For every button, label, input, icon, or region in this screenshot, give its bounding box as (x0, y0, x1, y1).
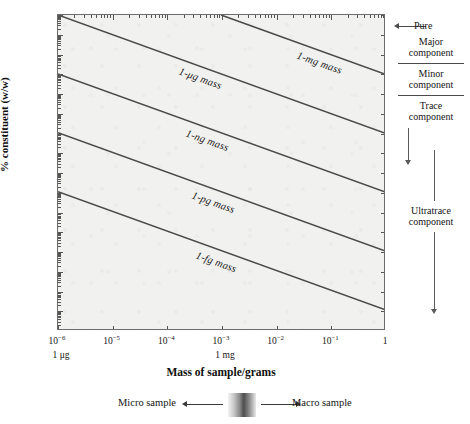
x-tick-label: 10−5 (103, 337, 120, 347)
sample-gradient-swatch (228, 393, 256, 417)
x-tick-sublabel: 1 μg (53, 351, 70, 361)
x-tick-sublabel: 1 mg (215, 351, 234, 361)
legend-label-major-2: component (392, 47, 470, 59)
trace-arrow-line (408, 128, 409, 161)
sample-size-scale: Micro sample Macro sample (0, 392, 470, 420)
x-axis-title: Mass of sample/grams (166, 366, 275, 378)
legend-label-ultratrace-2: component (392, 216, 470, 228)
legend-label-trace-2: component (392, 111, 470, 123)
micro-sample-label: Micro sample (118, 397, 176, 408)
legend-label-ultratrace-1: Ultratrace (392, 205, 470, 217)
legend-label-major-1: Major (392, 36, 470, 48)
legend-label-pure: Pure (414, 20, 470, 32)
macro-sample-label: Macro sample (292, 397, 352, 408)
x-tick-label: 10−4 (158, 337, 175, 347)
x-tick-label: 10−6 (49, 337, 66, 347)
concentration-legend: Pure Major component Minor component Tra… (392, 0, 470, 424)
trace-arrow-icon (405, 160, 411, 165)
ultratrace-arrow-icon (431, 309, 437, 314)
micro-arrow-line (187, 404, 223, 405)
x-tick-label: 10−2 (267, 337, 284, 347)
ultratrace-arrow-line-upper (434, 150, 435, 201)
legend-divider-minor-trace (398, 95, 464, 96)
ultratrace-arrow-line-lower (434, 232, 435, 310)
legend-label-trace-1: Trace (392, 100, 470, 112)
y-axis-title: % constituent (w/w) (0, 77, 10, 172)
x-tick-label: 1 (383, 337, 388, 347)
x-tick-label: 10−3 (213, 337, 230, 347)
x-tick-label: 10−1 (322, 337, 339, 347)
legend-label-minor-1: Minor (392, 68, 470, 80)
legend-divider-major-minor (398, 63, 464, 64)
chart-root: 1-mg mass1-μg mass1-ng mass1-pg mass1-fg… (0, 0, 470, 424)
legend-label-minor-2: component (392, 79, 470, 91)
